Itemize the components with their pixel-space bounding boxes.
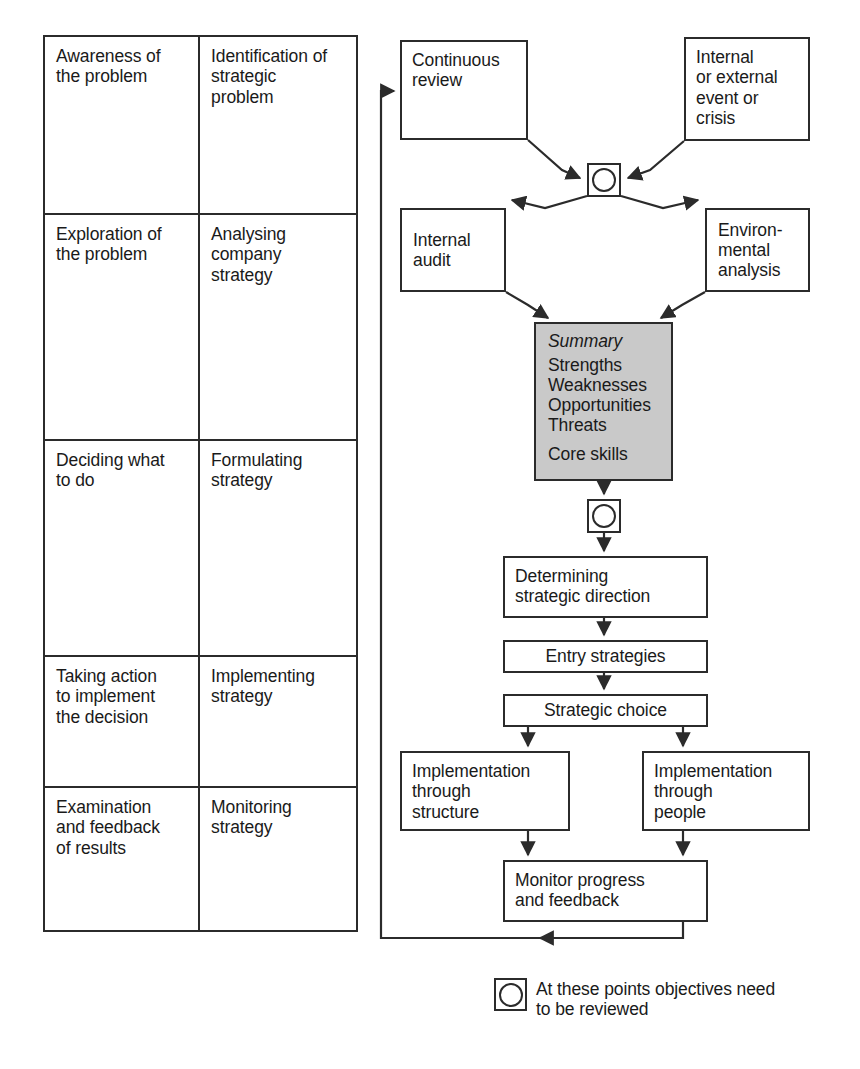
node-strategic-choice-label: Strategic choice	[544, 700, 667, 720]
stage-cell-deciding: Deciding whatto do	[45, 441, 200, 655]
arrow-internal-audit-to-summary	[506, 292, 548, 318]
review-marker-top[interactable]	[587, 163, 621, 197]
node-environmental-analysis-label: Environ-mentalanalysis	[718, 220, 782, 281]
node-implementation-through-people[interactable]: Implementationthroughpeople	[642, 751, 810, 831]
arrow-environmental-analysis-to-summary	[661, 292, 705, 318]
table-row: Examinationand feedbackof results Monito…	[45, 788, 356, 930]
legend-text: At these points objectives needto be rev…	[536, 978, 775, 1020]
summary-item-strengths: Strengths	[548, 356, 665, 376]
legend-marker-box	[494, 978, 527, 1011]
node-summary[interactable]: Summary Strengths Weaknesses Opportuniti…	[534, 322, 673, 481]
activity-cell-monitoring: Monitoringstrategy	[200, 788, 356, 930]
activity-cell-formulating: Formulatingstrategy	[200, 441, 356, 655]
summary-item-threats: Threats	[548, 416, 665, 436]
legend: At these points objectives needto be rev…	[494, 978, 775, 1020]
arrow-event-to-marker	[628, 141, 684, 178]
summary-title: Summary	[548, 331, 665, 351]
table-row: Awareness ofthe problem Identification o…	[45, 37, 356, 215]
node-strategic-choice[interactable]: Strategic choice	[503, 694, 708, 727]
node-implementation-through-people-label: Implementationthroughpeople	[654, 761, 802, 822]
arrow-review-to-marker	[528, 140, 580, 178]
node-implementation-through-structure[interactable]: Implementationthroughstructure	[400, 751, 570, 831]
stage-cell-examination: Examinationand feedbackof results	[45, 788, 200, 930]
node-continuous-review[interactable]: Continuousreview	[400, 40, 528, 140]
node-internal-or-external-event-label: Internalor externalevent orcrisis	[696, 47, 802, 128]
circle-in-square-icon	[499, 983, 523, 1007]
node-entry-strategies[interactable]: Entry strategies	[503, 640, 708, 673]
strategy-stages-table: Awareness ofthe problem Identification o…	[43, 35, 358, 932]
node-continuous-review-label: Continuousreview	[412, 50, 520, 91]
table-row: Taking actionto implementthe decision Im…	[45, 657, 356, 788]
activity-cell-identification: Identification ofstrategicproblem	[200, 37, 356, 213]
review-marker-bottom[interactable]	[587, 499, 621, 533]
node-internal-audit-label: Internalaudit	[413, 230, 471, 271]
circle-in-square-icon	[592, 504, 616, 528]
node-internal-or-external-event[interactable]: Internalor externalevent orcrisis	[684, 37, 810, 141]
stage-cell-taking-action: Taking actionto implementthe decision	[45, 657, 200, 786]
node-implementation-through-structure-label: Implementationthroughstructure	[412, 761, 562, 822]
diagram-canvas: Awareness ofthe problem Identification o…	[0, 0, 860, 1069]
node-determining-strategic-direction-label: Determiningstrategic direction	[515, 566, 700, 607]
table-row: Deciding whatto do Formulatingstrategy	[45, 441, 356, 657]
node-monitor-progress-label: Monitor progressand feedback	[515, 870, 700, 911]
node-entry-strategies-label: Entry strategies	[546, 646, 666, 666]
arrow-marker-to-internal-audit	[512, 196, 587, 208]
stage-cell-awareness: Awareness ofthe problem	[45, 37, 200, 213]
activity-cell-implementing: Implementingstrategy	[200, 657, 356, 786]
node-determining-strategic-direction[interactable]: Determiningstrategic direction	[503, 556, 708, 618]
activity-cell-analysing: Analysingcompanystrategy	[200, 215, 356, 439]
arrow-marker-to-environmental-analysis	[621, 196, 698, 208]
node-internal-audit[interactable]: Internalaudit	[400, 208, 506, 292]
summary-item-weaknesses: Weaknesses	[548, 376, 665, 396]
circle-in-square-icon	[592, 168, 616, 192]
summary-item-core-skills: Core skills	[548, 445, 665, 465]
node-environmental-analysis[interactable]: Environ-mentalanalysis	[705, 208, 810, 292]
stage-cell-exploration: Exploration ofthe problem	[45, 215, 200, 439]
summary-item-opportunities: Opportunities	[548, 396, 665, 416]
table-row: Exploration ofthe problem Analysingcompa…	[45, 215, 356, 441]
node-monitor-progress[interactable]: Monitor progressand feedback	[503, 860, 708, 922]
